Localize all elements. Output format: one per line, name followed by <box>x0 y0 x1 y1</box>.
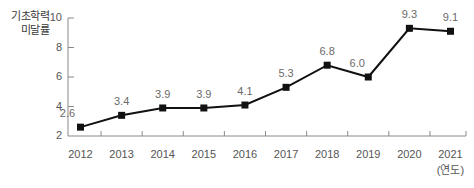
x-axis-tick-label: 2012 <box>58 148 104 160</box>
series-group <box>77 25 454 131</box>
data-point-label: 3.9 <box>148 89 178 100</box>
data-point-marker <box>324 62 331 69</box>
data-point-marker <box>447 28 454 35</box>
x-axis-tick-label: 2016 <box>222 148 268 160</box>
line-chart: 기초학력 미달률 108642 201220132014201520162017… <box>0 0 474 188</box>
data-point-label: 2.6 <box>53 108 83 119</box>
data-point-marker <box>159 104 166 111</box>
data-point-label: 3.9 <box>189 89 219 100</box>
data-point-marker <box>283 84 290 91</box>
data-point-marker <box>118 112 125 119</box>
y-axis-tick-label: 2 <box>46 130 62 141</box>
data-point-label: 9.1 <box>436 12 466 23</box>
x-axis-line <box>68 131 466 136</box>
x-axis-tick-label: 2013 <box>99 148 145 160</box>
data-point-label: 6.8 <box>312 46 342 57</box>
x-axis-tick-label: 2014 <box>140 148 186 160</box>
series-line <box>81 28 451 127</box>
x-axis-tick-label: 2021 <box>428 148 474 160</box>
x-axis-tick-label: 2015 <box>181 148 227 160</box>
axis-group <box>68 18 466 136</box>
y-axis-tick-label: 8 <box>46 42 62 53</box>
data-point-label: 9.3 <box>394 9 424 20</box>
x-axis-tick-label: 2017 <box>263 148 309 160</box>
y-axis-tick-label: 6 <box>46 71 62 82</box>
data-point-label: 5.3 <box>271 68 301 79</box>
data-point-marker <box>365 74 372 81</box>
data-point-marker <box>406 25 413 32</box>
x-axis-tick-label: 2020 <box>386 148 432 160</box>
data-point-label: 6.0 <box>342 58 372 69</box>
data-point-marker <box>241 102 248 109</box>
data-point-label: 3.4 <box>107 96 137 107</box>
x-axis-tick-label: 2018 <box>304 148 350 160</box>
y-axis-ticks <box>68 48 74 107</box>
data-point-marker <box>200 104 207 111</box>
data-point-marker <box>77 124 84 131</box>
x-axis-tick-label: 2019 <box>345 148 391 160</box>
data-point-label: 4.1 <box>230 86 260 97</box>
y-axis-tick-label: 10 <box>46 12 62 23</box>
x-axis-ticks <box>101 131 430 136</box>
x-axis-unit-label: (연도) <box>428 164 474 176</box>
series-markers <box>77 25 454 131</box>
